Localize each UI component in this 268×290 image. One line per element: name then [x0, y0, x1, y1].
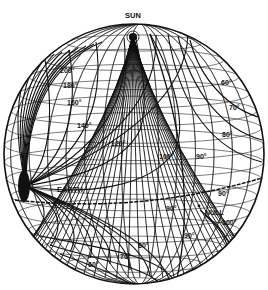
contour-label-c70b: 70°: [120, 253, 131, 260]
contour-label-c60b: 60°: [88, 261, 99, 268]
contour-label-c160: 160°: [67, 99, 82, 106]
null-point-marker: [198, 205, 201, 208]
sun-pole-marker: [129, 33, 137, 41]
contour-label-c90b: 90°: [218, 190, 229, 197]
earth-label: EARTH: [57, 185, 83, 194]
contour-label-c90d: 90°: [184, 232, 195, 239]
contour-label-c100: 100°: [159, 153, 174, 160]
contour-label-c90c: 90°: [166, 205, 177, 212]
contour-label-c70r: 70°: [229, 104, 240, 111]
contour-label-c80r: 80°: [222, 131, 233, 138]
contour-label-c200: 200°: [60, 67, 75, 74]
contour-label-c90a: 90°: [196, 153, 207, 160]
contour-label-c60r: 60°: [221, 79, 232, 86]
contour-label-c80b: 80°: [138, 242, 149, 249]
null-label: NULL: [205, 209, 224, 216]
sphere-diagram: SUN EARTH NULL 200°180°160°140°120°100°9…: [0, 0, 268, 290]
contour-label-c180: 180°: [63, 82, 78, 89]
contour-label-c120: 120°: [111, 140, 126, 147]
sun-label: SUN: [125, 11, 141, 20]
earth-pole-marker: [18, 170, 30, 202]
contour-label-c100b: 100°: [222, 219, 237, 226]
contour-label-c140: 140°: [77, 122, 92, 129]
